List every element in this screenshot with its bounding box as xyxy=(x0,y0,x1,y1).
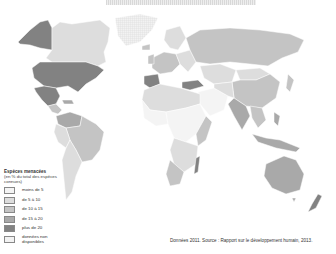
region-iceland xyxy=(142,44,150,50)
region-russia xyxy=(186,28,304,66)
region-canada xyxy=(46,20,110,66)
region-mexico xyxy=(34,86,60,106)
legend-swatch xyxy=(4,206,15,213)
region-scandinavia xyxy=(164,26,186,50)
legend-label: de 10 à 15 xyxy=(22,207,43,212)
legend-swatch xyxy=(4,216,15,223)
region-central-america xyxy=(48,104,62,114)
legend-subtitle: (en % du total des espèces connues) xyxy=(4,174,74,184)
legend-item: données non disponibles xyxy=(4,234,74,246)
region-indonesia xyxy=(252,134,300,152)
legend-swatch xyxy=(4,187,15,194)
legend-swatch xyxy=(4,225,15,232)
region-philippines xyxy=(274,112,280,126)
map-legend: Espèces menacées (en % du total des espè… xyxy=(4,169,74,246)
region-central-asia xyxy=(200,64,236,84)
legend-item: moins de 5 xyxy=(4,186,74,196)
region-australia xyxy=(264,156,304,194)
region-new-zealand xyxy=(308,194,322,212)
legend-label: de 15 à 20 xyxy=(22,217,43,222)
region-turkey xyxy=(182,80,204,90)
legend-item: de 10 à 15 xyxy=(4,205,74,215)
region-caribbean xyxy=(62,100,74,104)
region-japan xyxy=(286,74,294,92)
legend-item: de 15 à 20 xyxy=(4,215,74,225)
region-uk xyxy=(148,54,154,64)
region-greenland xyxy=(115,14,158,46)
region-tasmania xyxy=(292,198,296,202)
legend-label: plus de 20 xyxy=(22,226,42,231)
region-western-europe xyxy=(152,52,180,74)
legend-item: de 5 à 10 xyxy=(4,196,74,206)
legend-swatch xyxy=(4,197,15,204)
source-caption: Données 2011. Source : Rapport sur le dé… xyxy=(170,238,312,243)
region-alaska xyxy=(18,20,52,50)
legend-label: de 5 à 10 xyxy=(22,198,40,203)
legend-swatch-hatched xyxy=(4,236,15,243)
legend-label: moins de 5 xyxy=(22,188,43,193)
legend-item: plus de 20 xyxy=(4,224,74,234)
region-southeast-asia xyxy=(250,106,266,128)
legend-label: données non disponibles xyxy=(22,235,56,244)
